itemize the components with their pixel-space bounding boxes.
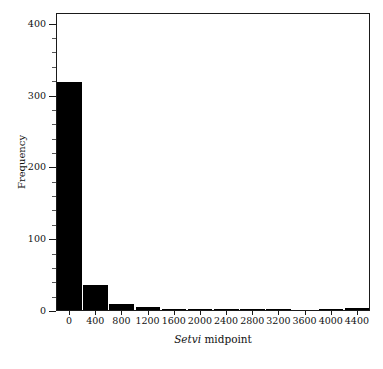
y-axis-tick-label: 300: [28, 91, 46, 101]
y-axis-tick-label: 200: [28, 162, 46, 172]
x-axis-tick-label: 1600: [162, 315, 186, 327]
plot-frame: [56, 13, 370, 311]
histogram-bar: [109, 304, 134, 310]
x-axis-tick-label: 4000: [319, 315, 343, 327]
x-axis-title: Setvi midpoint: [56, 333, 370, 346]
x-axis-tick-label: 1200: [135, 315, 159, 327]
bar-series: [57, 14, 369, 310]
histogram-bar: [136, 307, 161, 310]
y-axis-tick: [49, 311, 56, 312]
plot-area: [57, 14, 369, 310]
y-axis-tick-label: 100: [28, 234, 46, 244]
x-axis-tick-label: 4400: [345, 315, 369, 327]
x-axis-tick-label: 3200: [266, 315, 290, 327]
y-axis-tick-label: 0: [40, 306, 46, 316]
x-axis-tick-label: 3600: [292, 315, 316, 327]
histogram-bar: [266, 309, 291, 310]
histogram-bar: [83, 285, 108, 310]
y-axis-tick: [49, 167, 56, 168]
x-axis-tick-label: 2400: [214, 315, 238, 327]
histogram-figure: Frequency 0100200300400 0400800120016002…: [0, 0, 383, 369]
histogram-bar: [319, 309, 344, 310]
x-axis-title-variable: Setvi: [174, 333, 201, 345]
x-axis-tick-label: 800: [112, 315, 130, 327]
x-axis-tick-label: 2800: [240, 315, 264, 327]
x-axis-tick-labels: 0400800120016002000240028003200360040004…: [56, 315, 370, 329]
y-axis-tick: [49, 239, 56, 240]
x-axis-title-suffix: midpoint: [201, 333, 252, 345]
y-axis-tick: [49, 24, 56, 25]
y-axis-tick: [49, 96, 56, 97]
histogram-bar: [57, 82, 82, 310]
y-axis-major-ticks: 0100200300400: [0, 13, 56, 311]
y-axis-tick-label: 400: [28, 19, 46, 29]
x-axis-tick-label: 400: [86, 315, 104, 327]
x-axis-tick-label: 0: [66, 315, 72, 327]
x-axis-tick-label: 2000: [188, 315, 212, 327]
histogram-bar: [240, 309, 265, 310]
histogram-bar: [214, 309, 239, 310]
histogram-bar: [162, 309, 187, 310]
histogram-bar: [345, 308, 370, 310]
histogram-bar: [188, 309, 213, 310]
